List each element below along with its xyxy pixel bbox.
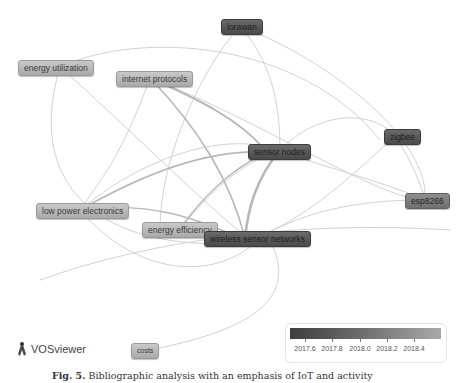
- node-wireless-sensor-networks[interactable]: wireless sensor networks: [204, 231, 311, 247]
- node-sensor-nodes[interactable]: sensor nodes: [248, 144, 311, 160]
- node-esp8266[interactable]: esp8266: [405, 193, 450, 209]
- node-lorawan[interactable]: lorawan: [221, 19, 263, 35]
- legend-tick-label: 2018.0: [349, 345, 370, 352]
- legend-tick-label: 2018.4: [403, 345, 424, 352]
- network-canvas[interactable]: lorawan energy utilization internet prot…: [0, 0, 463, 383]
- legend-tick-label: 2017.8: [321, 345, 342, 352]
- legend-tick: [305, 339, 306, 342]
- app-name: VOSviewer: [31, 343, 86, 355]
- legend-tick-label: 2018.2: [376, 345, 397, 352]
- legend-tick: [414, 339, 415, 342]
- node-zigbee[interactable]: zigbee: [384, 129, 421, 145]
- legend-gradient-bar: [290, 328, 441, 339]
- node-low-power-electronics[interactable]: low power electronics: [36, 203, 129, 219]
- vosviewer-logo: VOSviewer: [16, 341, 86, 357]
- legend-tick: [360, 339, 361, 342]
- legend-tick: [332, 339, 333, 342]
- legend-tick: [387, 339, 388, 342]
- node-costs[interactable]: costs: [131, 343, 159, 359]
- figure-caption: Fig. 5. Bibliographic analysis with an e…: [52, 370, 373, 381]
- figure-caption-text: Bibliographic analysis with an emphasis …: [89, 370, 373, 381]
- node-energy-utilization[interactable]: energy utilization: [18, 60, 94, 76]
- vosviewer-logo-icon: [16, 341, 28, 357]
- figure-caption-label: Fig. 5.: [52, 370, 86, 381]
- overlay-color-legend: 2017.6 2017.8 2018.0 2018.2 2018.4: [285, 323, 447, 363]
- node-internet-protocols[interactable]: internet protocols: [116, 71, 193, 87]
- legend-tick-label: 2017.6: [294, 345, 315, 352]
